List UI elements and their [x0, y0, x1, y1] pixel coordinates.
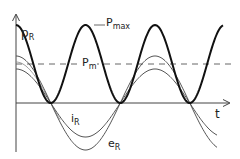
label-i-r: iR: [71, 113, 80, 127]
label-e-r: eR: [108, 138, 120, 152]
label-t-axis: t: [215, 108, 220, 120]
label-p-r: pR: [21, 27, 34, 42]
label-p-max: Pmax: [106, 17, 130, 31]
label-p-m: Pm: [81, 57, 97, 71]
power-waveform-diagram: pR Pmax Pm iR eR t: [0, 0, 240, 159]
